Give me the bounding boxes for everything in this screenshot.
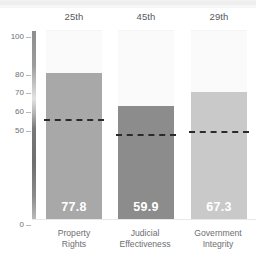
bar-fill-judicial-effectiveness[interactable]: 59.9 xyxy=(118,106,174,219)
category-label-government-integrity: Government Integrity xyxy=(180,228,256,249)
y-tick-label-100: 100 xyxy=(2,33,24,41)
y-tick-mark-70 xyxy=(26,93,31,94)
reference-line-government-integrity xyxy=(189,131,249,133)
reference-line-property-rights xyxy=(44,119,104,121)
category-label-row: Property Rights Judicial Effectiveness G… xyxy=(36,228,256,258)
category-label-judicial-effectiveness: Judicial Effectiveness xyxy=(107,228,183,249)
rank-label-property-rights: 25th xyxy=(38,11,110,22)
category-label-line1: Judicial xyxy=(107,228,183,239)
bar-fill-government-integrity[interactable]: 67.3 xyxy=(191,92,247,219)
bar-chart: 25th 45th 29th 100 80 70 60 50 0 77.8 xyxy=(0,0,256,261)
y-tick-label-80: 80 xyxy=(2,71,24,79)
rank-label-judicial-effectiveness: 45th xyxy=(110,11,182,22)
category-label-line2: Rights xyxy=(36,239,112,250)
y-tick-mark-100 xyxy=(26,37,31,38)
rank-label-government-integrity: 29th xyxy=(183,11,255,22)
x-axis-baseline xyxy=(32,219,256,220)
bar-column-government-integrity[interactable]: 67.3 xyxy=(191,25,247,219)
bar-value-property-rights: 77.8 xyxy=(46,200,102,214)
category-label-line1: Government xyxy=(180,228,256,239)
category-label-line2: Effectiveness xyxy=(107,239,183,250)
y-tick-label-50: 50 xyxy=(2,127,24,135)
category-label-property-rights: Property Rights xyxy=(36,228,112,249)
y-tick-mark-0 xyxy=(26,225,31,226)
y-tick-label-60: 60 xyxy=(2,108,24,116)
y-axis-spine xyxy=(32,31,36,219)
bar-value-government-integrity: 67.3 xyxy=(191,200,247,214)
y-tick-mark-50 xyxy=(26,131,31,132)
reference-line-judicial-effectiveness xyxy=(116,134,176,136)
bar-column-judicial-effectiveness[interactable]: 59.9 xyxy=(118,25,174,219)
y-tick-mark-80 xyxy=(26,75,31,76)
bar-fill-property-rights[interactable]: 77.8 xyxy=(46,73,102,219)
top-header-band-edge xyxy=(0,7,256,8)
category-label-line1: Property xyxy=(36,228,112,239)
top-header-band xyxy=(0,0,256,7)
bar-column-property-rights[interactable]: 77.8 xyxy=(46,25,102,219)
y-tick-label-0: 0 xyxy=(2,221,24,229)
plot-area: 100 80 70 60 50 0 77.8 59.9 xyxy=(0,31,256,225)
y-tick-mark-60 xyxy=(26,112,31,113)
bar-value-judicial-effectiveness: 59.9 xyxy=(118,200,174,214)
category-label-line2: Integrity xyxy=(180,239,256,250)
y-tick-label-70: 70 xyxy=(2,89,24,97)
